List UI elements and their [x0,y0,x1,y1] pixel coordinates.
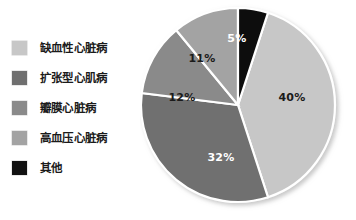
legend-label-other: 其他 [40,161,62,175]
legend-swatch-dilated-cardiomyopathy [12,71,27,85]
legend-swatch-valvular-heart-disease [12,101,27,115]
legend-label-valvular-heart-disease: 瓣膜心脏病 [40,101,96,115]
legend-label-hypertensive-heart-disease: 高血压心脏病 [40,131,107,145]
legend-item-other[interactable]: 其他 [12,153,140,183]
legend-swatch-hypertensive-heart-disease [12,131,27,145]
legend-swatch-ischemic-heart-disease [12,41,27,55]
legend-label-ischemic-heart-disease: 缺血性心脏病 [40,41,107,55]
legend-item-ischemic-heart-disease[interactable]: 缺血性心脏病 [12,33,140,63]
pie-chart-figure: 缺血性心脏病 扩张型心肌病 瓣膜心脏病 高血压心脏病 其他 [0,0,356,220]
pie-plot-area: 40% 32% 12% 11% 5% [140,0,356,220]
legend-label-dilated-cardiomyopathy: 扩张型心肌病 [40,71,107,85]
pie-svg: 40% 32% 12% 11% 5% [140,0,356,220]
pie-value-label-dilated-cardiomyopathy: 32% [207,151,234,164]
chart-legend: 缺血性心脏病 扩张型心肌病 瓣膜心脏病 高血压心脏病 其他 [12,33,140,183]
legend-item-dilated-cardiomyopathy[interactable]: 扩张型心肌病 [12,63,140,93]
pie-value-label-ischemic-heart-disease: 40% [278,91,305,104]
pie-value-label-hypertensive-heart-disease: 11% [188,52,215,65]
legend-swatch-other [12,161,27,175]
legend-item-hypertensive-heart-disease[interactable]: 高血压心脏病 [12,123,140,153]
pie-value-label-other: 5% [227,32,246,45]
pie-value-label-valvular-heart-disease: 12% [168,91,195,104]
legend-item-valvular-heart-disease[interactable]: 瓣膜心脏病 [12,93,140,123]
